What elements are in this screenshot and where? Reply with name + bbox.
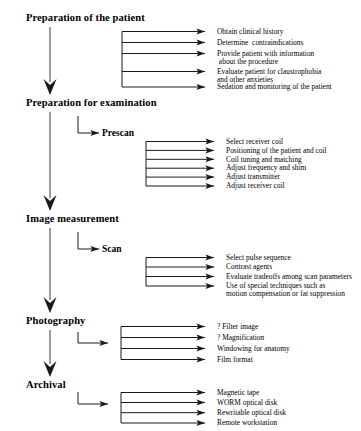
stage-label-photography: Photography	[26, 315, 85, 326]
task-item: ? Magnification	[217, 334, 264, 342]
task-item: ? Filter image	[217, 323, 258, 331]
task-item: Film format	[217, 356, 253, 364]
branch-bracket-2	[146, 142, 214, 187]
branch-elbow-2	[78, 116, 99, 133]
task-item: Sedation and monitoring of the patient	[217, 83, 332, 91]
stage-label-image-measurement: Image measurement	[26, 213, 119, 224]
task-item: Determine contraindications	[217, 39, 303, 47]
sub-label-scan: Scan	[102, 244, 122, 254]
branch-elbow-5	[78, 392, 108, 404]
branch-bracket-3	[146, 258, 214, 287]
stage-label-archival: Archival	[26, 379, 66, 390]
spine-arrow-2	[44, 112, 57, 211]
stage-label-preparation-for-examination: Preparation for examination	[26, 97, 157, 108]
task-item: Magnetic tape	[217, 389, 259, 397]
stage-label-preparation-of-the-patient: Preparation of the patient	[26, 12, 145, 23]
task-item: Obtain clinical history	[217, 28, 284, 36]
branch-elbow-4	[78, 332, 108, 343]
task-item: Windowing for anatomy	[217, 345, 290, 353]
spine-arrow-1	[44, 27, 57, 95]
task-item: Evaluate tradeoffs among scan parameters	[226, 273, 352, 281]
task-item: Rewritable optical disk	[217, 409, 286, 417]
spine-arrow-3	[44, 228, 57, 313]
task-item: Remote workstation	[217, 419, 277, 427]
sub-label-prescan: Prescan	[102, 128, 134, 138]
task-item: Contrast agents	[226, 263, 272, 271]
task-item: Use of special techniques such as motion…	[226, 282, 345, 298]
branch-elbow-3	[78, 232, 99, 249]
task-item: Select receiver coil	[226, 138, 283, 146]
task-item: Select pulse sequence	[226, 254, 291, 262]
task-item: Adjust receiver coil	[226, 182, 285, 190]
task-item: Positioning of the patient and coil	[226, 147, 327, 155]
spine-arrow-4	[44, 330, 57, 377]
task-item: Provide patient with information about t…	[217, 50, 314, 66]
task-item: WORM optical disk	[217, 399, 277, 407]
branch-bracket-1	[122, 32, 205, 88]
branch-bracket-5	[121, 393, 205, 424]
branch-bracket-4	[121, 327, 205, 360]
